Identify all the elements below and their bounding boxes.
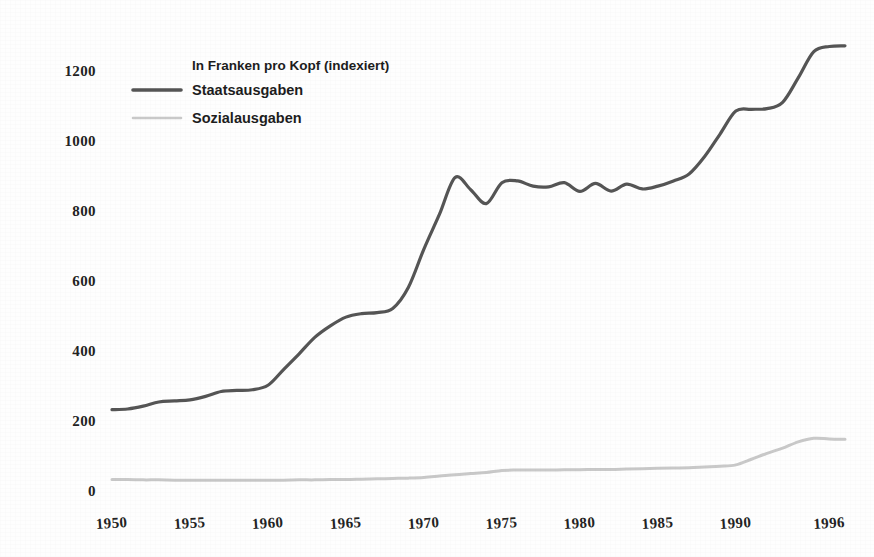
chart-legend: In Franken pro Kopf (indexiert)Staatsaus… bbox=[133, 58, 389, 126]
x-axis-tick-labels: 1950195519601965197019751980198519901996 bbox=[95, 514, 845, 532]
x-tick-label: 1965 bbox=[329, 514, 362, 532]
x-tick-label: 1990 bbox=[719, 514, 752, 532]
y-tick-label: 400 bbox=[72, 343, 96, 359]
y-axis-tick-labels: 020040060080010001200 bbox=[64, 63, 96, 498]
x-tick-label: 1996 bbox=[813, 514, 846, 532]
x-tick-label: 1960 bbox=[251, 514, 284, 532]
x-tick-label: 1970 bbox=[407, 514, 440, 532]
chart-figure: 020040060080010001200 195019551960196519… bbox=[0, 0, 874, 557]
legend-label-sozialausgaben: Sozialausgaben bbox=[192, 110, 302, 126]
x-tick-label: 1980 bbox=[563, 514, 596, 532]
y-tick-label: 1000 bbox=[64, 133, 96, 149]
y-tick-label: 600 bbox=[72, 273, 96, 289]
x-tick-label: 1975 bbox=[485, 514, 518, 532]
x-tick-label: 1955 bbox=[173, 514, 206, 532]
x-tick-label: 1950 bbox=[95, 514, 128, 532]
y-tick-label: 200 bbox=[72, 413, 96, 429]
x-tick-label: 1985 bbox=[641, 514, 674, 532]
series-line-staatsausgaben bbox=[112, 46, 845, 410]
y-tick-label: 1200 bbox=[64, 63, 96, 79]
legend-title: In Franken pro Kopf (indexiert) bbox=[192, 58, 389, 73]
y-tick-label: 0 bbox=[88, 483, 96, 499]
series-line-sozialausgaben bbox=[112, 438, 845, 480]
legend-label-staatsausgaben: Staatsausgaben bbox=[192, 82, 303, 98]
y-tick-label: 800 bbox=[72, 203, 96, 219]
line-chart-canvas: 020040060080010001200 195019551960196519… bbox=[0, 0, 874, 557]
